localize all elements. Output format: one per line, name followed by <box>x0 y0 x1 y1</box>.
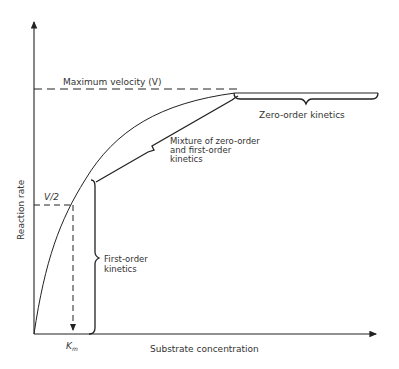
kinetics-diagram: Maximum velocity (V) V/2 Km First-order … <box>0 0 399 369</box>
mixture-label: Mixture of zero-order and first-order ki… <box>170 136 263 164</box>
km-label: Km <box>66 341 78 352</box>
y-axis-label: Reaction rate <box>16 179 26 240</box>
zero-order-brace <box>234 93 378 104</box>
first-order-label: First-order kinetics <box>104 254 150 274</box>
x-axis-label: Substrate concentration <box>150 344 259 354</box>
zero-order-label: Zero-order kinetics <box>259 110 345 120</box>
half-vmax-label: V/2 <box>44 192 59 202</box>
vmax-label: Maximum velocity (V) <box>63 77 161 87</box>
first-order-brace <box>89 180 99 334</box>
rate-curve <box>34 93 378 334</box>
